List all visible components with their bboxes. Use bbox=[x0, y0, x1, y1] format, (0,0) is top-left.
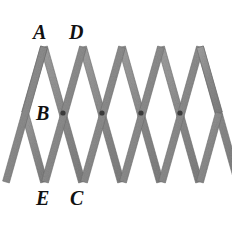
vertex-label-c: C bbox=[70, 188, 83, 208]
pivot-dot-2 bbox=[138, 110, 143, 115]
strip-down-right-edge-bottom-right bbox=[197, 112, 223, 183]
figure-canvas: A D B E C bbox=[0, 0, 232, 227]
pivot-dot-1 bbox=[99, 110, 104, 115]
pivot-dot-group bbox=[60, 110, 182, 115]
vertex-label-e: E bbox=[36, 188, 49, 208]
vertex-label-d: D bbox=[69, 22, 83, 42]
vertex-label-b: B bbox=[36, 103, 49, 123]
vertex-label-a: A bbox=[33, 22, 46, 42]
strip-down-left-edge-top-right bbox=[197, 46, 223, 114]
pivot-dot-3 bbox=[177, 110, 182, 115]
pivot-dot-0 bbox=[60, 110, 65, 115]
